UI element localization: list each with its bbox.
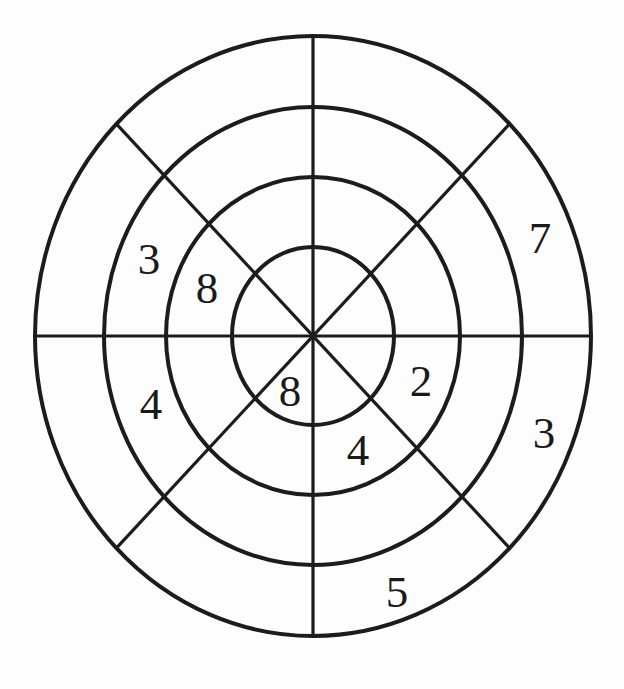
target-diagram: 387324845	[0, 0, 624, 689]
ring-labels: 387324845	[0, 0, 624, 689]
cell-value-ring2-west-northwest: 8	[196, 266, 219, 311]
cell-value-ring4-south-southeast: 5	[386, 570, 409, 615]
cell-value-ring1-south-southwest: 8	[279, 369, 302, 414]
cell-value-ring2-east-southeast: 2	[410, 359, 433, 404]
cell-value-ring2-south-southeast: 4	[347, 428, 370, 473]
cell-value-ring4-east-southeast: 3	[533, 411, 556, 456]
cell-value-ring3-west-northwest: 3	[138, 237, 161, 282]
cell-value-ring3-west-southwest: 4	[140, 382, 163, 427]
cell-value-ring4-east-northeast: 7	[529, 216, 552, 261]
